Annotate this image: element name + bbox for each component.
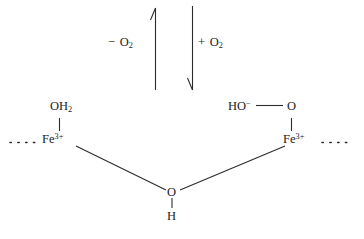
- left-aqua-ligand-label: OH2: [50, 100, 72, 115]
- left-aqua-ligand-formula: OH: [50, 99, 68, 113]
- plus-o2-arrow-head: [188, 78, 193, 90]
- peroxo-oxygen-label: O: [287, 100, 296, 113]
- minus-o2-species: O: [120, 35, 129, 49]
- left-iron-label: Fe3+: [42, 133, 63, 146]
- bridging-oxygen-label: O: [167, 186, 176, 199]
- plus-o2-operator: +: [198, 35, 206, 49]
- plus-o2-arrow: [188, 6, 193, 90]
- bridging-hydrogen-label: H: [167, 210, 176, 223]
- minus-o2-arrow: [151, 8, 156, 90]
- left-bridge-bond: [76, 146, 166, 190]
- chemical-equilibrium-diagram: − O2 + O2 OH2 Fe3+ HO− O Fe3+ O H: [0, 0, 364, 239]
- plus-o2-subscript: 2: [219, 41, 223, 50]
- right-iron-label: Fe3+: [283, 133, 304, 146]
- minus-o2-subscript: 2: [129, 41, 133, 50]
- left-iron-symbol: Fe: [42, 132, 55, 146]
- hydroxide-charge: −: [246, 99, 251, 108]
- diagram-vector-layer: [0, 0, 364, 239]
- hydroxide-label: HO−: [228, 100, 251, 113]
- minus-o2-operator: −: [108, 35, 116, 49]
- plus-o2-label: + O2: [198, 36, 223, 51]
- minus-o2-arrow-head: [151, 8, 156, 20]
- left-iron-charge: 3+: [55, 132, 64, 141]
- minus-o2-label: − O2: [108, 36, 133, 51]
- right-iron-symbol: Fe: [283, 132, 296, 146]
- plus-o2-species: O: [210, 35, 219, 49]
- hydroxide-formula: HO: [228, 99, 246, 113]
- left-aqua-ligand-subscript: 2: [68, 105, 72, 114]
- right-iron-charge: 3+: [296, 132, 305, 141]
- right-bridge-bond: [180, 146, 285, 190]
